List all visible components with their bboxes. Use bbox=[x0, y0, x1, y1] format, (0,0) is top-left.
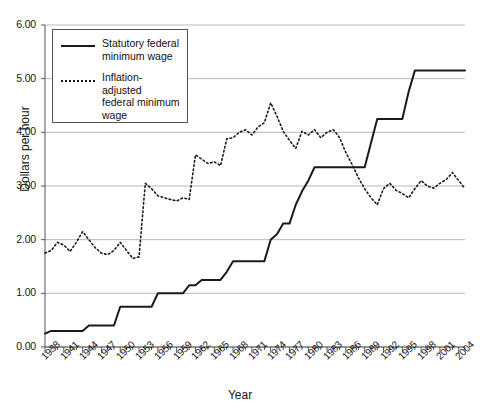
series-inflation-adjusted-wage bbox=[45, 103, 465, 259]
y-tick-label: 6.00 bbox=[2, 18, 36, 30]
x-axis-title: Year bbox=[0, 388, 480, 402]
y-tick-label: 5.00 bbox=[2, 72, 36, 84]
legend-label-statutory-line1: Statutory federal bbox=[102, 37, 179, 50]
legend-swatch-solid-icon bbox=[59, 40, 97, 53]
legend-label-inflation-line3: wage bbox=[102, 109, 181, 122]
y-tick-label: 1.00 bbox=[2, 286, 36, 298]
y-tick-marks bbox=[41, 25, 45, 347]
legend-swatch-dotted-icon bbox=[59, 74, 97, 87]
y-axis-title: Dollars per hour bbox=[18, 89, 32, 209]
legend-label-statutory: Statutory federal minimum wage bbox=[102, 37, 179, 62]
legend-label-statutory-line2: minimum wage bbox=[102, 50, 179, 63]
y-tick-label: 0.00 bbox=[2, 340, 36, 352]
legend-label-inflation-line1: Inflation-adjusted bbox=[102, 71, 181, 96]
legend-label-inflation-adjusted: Inflation-adjusted federal minimum wage bbox=[102, 71, 181, 121]
chart-legend: Statutory federal minimum wage Inflation… bbox=[52, 29, 188, 123]
y-tick-label: 2.00 bbox=[2, 233, 36, 245]
legend-item-inflation-adjusted: Inflation-adjusted federal minimum wage bbox=[59, 71, 181, 121]
legend-label-inflation-line2: federal minimum bbox=[102, 96, 181, 109]
legend-item-statutory: Statutory federal minimum wage bbox=[59, 37, 181, 62]
minimum-wage-chart: 0.001.002.003.004.005.006.00 19381941194… bbox=[0, 0, 480, 413]
